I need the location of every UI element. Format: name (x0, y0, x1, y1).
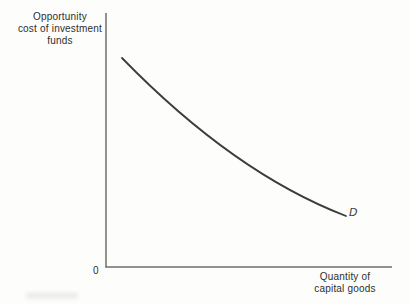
y-axis-label-line: cost of investment (15, 23, 105, 35)
y-axis-label: Opportunity cost of investment funds (15, 11, 105, 47)
x-axis-label-line: capital goods (302, 283, 388, 295)
y-axis-label-line: Opportunity (15, 11, 105, 23)
demand-curve (122, 58, 346, 216)
origin-label: 0 (93, 265, 99, 276)
demand-curve-label: D (349, 206, 357, 219)
investment-demand-figure: Opportunity cost of investment funds 0 D… (0, 0, 410, 304)
scan-smudge-artifact (26, 293, 78, 298)
x-axis-label: Quantity of capital goods (302, 271, 388, 295)
y-axis-label-line: funds (15, 35, 105, 47)
x-axis-label-line: Quantity of (302, 271, 388, 283)
